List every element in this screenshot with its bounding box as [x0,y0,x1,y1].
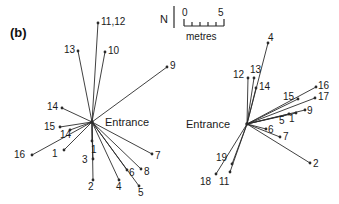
ray-line [78,51,92,122]
entrance-center-dot [245,122,249,126]
ray-number-label: 5 [279,116,285,126]
ray-number-label: 7 [283,132,289,142]
scale-end-label: 5 [218,8,224,18]
ray-endpoint-dot [229,171,232,174]
ray-endpoint-dot [255,87,258,90]
ray-number-label: 4 [268,33,274,43]
ray-line [92,122,141,169]
ray-endpoint-dot [295,112,298,115]
ray-number-label: 16 [318,81,329,91]
ray-number-label: 10 [108,46,119,56]
ray-endpoint-dot [297,98,300,101]
ray-number-label: 3 [82,155,88,165]
ray-endpoint-dot [315,86,318,89]
ray-number-label: 9 [307,106,313,116]
ray-number-label: 12 [233,70,244,80]
ray-number-label: 19 [216,153,227,163]
ray-line [62,108,92,122]
ray-endpoint-dot [77,50,80,53]
ray-number-label: 1 [52,149,58,159]
ray-number-label: 4 [116,182,122,192]
ray-number-label: 11,12 [101,17,125,27]
ray-number-label: 11 [219,177,229,187]
ray-endpoint-dot [265,128,268,131]
ray-line [92,67,167,122]
ray-number-label: 9 [170,61,176,71]
figure-root: (b) N 0 5 metres Entrance Entrance 11,12… [0,0,339,204]
ray-number-label: 7 [155,151,161,161]
ray-number-label: 5 [138,188,144,198]
scale-unit-label: metres [186,32,217,42]
north-arrow-label: N [160,14,168,25]
ray-number-label: 14 [259,82,270,92]
ray-number-label: 15 [44,122,55,132]
ray-line [92,122,127,170]
ray-line [247,124,310,163]
ray-endpoint-dot [151,153,154,156]
ray-number-label: 13 [250,65,261,75]
ray-number-label: 14 [47,102,58,112]
ray-number-label: 1 [289,114,295,124]
ray-endpoint-dot [253,77,256,80]
ray-endpoint-dot [31,154,34,157]
ray-number-label: 15 [283,92,294,102]
ray-endpoint-dot [61,107,64,110]
ray-number-label: 6 [129,168,135,178]
ray-endpoint-dot [215,173,218,176]
ray-number-label: 2 [88,182,94,192]
ray-endpoint-dot [309,162,312,165]
ray-endpoint-dot [97,22,100,25]
scale-start-label: 0 [182,8,188,18]
ray-endpoint-dot [304,109,307,112]
ray-endpoint-dot [126,169,129,172]
ray-line [70,122,92,130]
ray-number-label: 8 [144,167,150,177]
entrance-center-dot [90,120,94,124]
ray-endpoint-dot [140,168,143,171]
entrance-label-right: Entrance [186,119,230,130]
ray-endpoint-dot [247,77,250,80]
ray-number-label: 13 [64,45,75,55]
ray-endpoint-dot [166,66,169,69]
ray-number-label: 2 [313,159,319,169]
entrance-label-left: Entrance [105,117,149,128]
ray-endpoint-dot [63,149,66,152]
ray-endpoint-dot [314,97,317,100]
ray-number-label: 17 [318,92,329,102]
ray-endpoint-dot [59,126,62,129]
ray-number-label: 1 [91,145,97,155]
ray-number-label: 14 [60,130,71,140]
ray-number-label: 16 [14,150,25,160]
ray-endpoint-dot [279,136,282,139]
ray-number-label: 18 [200,177,211,187]
ray-number-label: 6 [268,125,274,135]
ray-endpoint-dot [104,51,107,54]
ray-line [247,124,280,137]
